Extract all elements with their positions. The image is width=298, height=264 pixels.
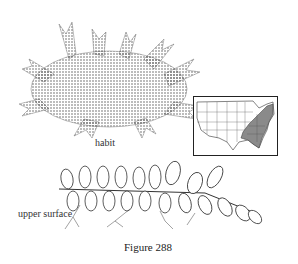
- figure-caption: Figure 288: [124, 241, 172, 253]
- habit-label: habit: [95, 137, 115, 148]
- upper-surface-illustration: [55, 155, 265, 230]
- habit-illustration: [14, 14, 204, 139]
- upper-surface-label: upper surface: [18, 208, 72, 219]
- distribution-map: [193, 96, 278, 156]
